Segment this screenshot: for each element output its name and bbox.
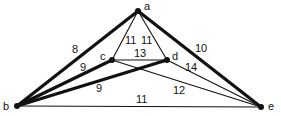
edge-b-e [17,106,261,107]
edge-weight-a-c: 11 [125,34,136,46]
vertex-label-e: e [268,100,274,112]
labels-layer: 81011111399121411abcde [3,0,274,112]
edge-weight-b-c: 9 [80,61,86,73]
weighted-graph: 81011111399121411abcde [0,0,281,116]
vertex-e [258,104,264,110]
vertex-label-b: b [3,100,9,112]
edge-a-e [138,11,261,107]
edge-a-b [17,11,138,106]
edge-weight-a-b: 8 [72,43,78,55]
vertex-a [135,8,141,14]
edge-weight-a-d: 11 [141,34,152,46]
edge-weight-b-e: 11 [136,93,147,105]
vertex-label-a: a [144,0,151,12]
vertex-label-d: d [172,50,178,62]
edge-weight-c-e: 12 [173,84,185,96]
edge-weight-c-d: 13 [134,47,146,59]
vertex-label-c: c [100,50,106,62]
edge-weight-b-d: 9 [96,82,102,94]
edge-weight-a-e: 10 [195,42,207,54]
vertex-b [14,103,20,109]
edge-weight-d-e: 14 [185,61,197,73]
vertex-c [109,57,115,63]
vertex-d [164,57,170,63]
